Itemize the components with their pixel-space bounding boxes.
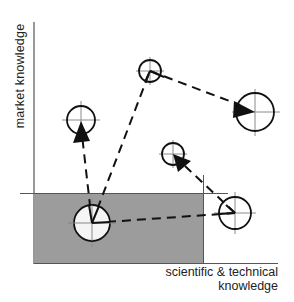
x-axis-label-line2: knowledge (165, 279, 278, 293)
x-axis-label: scientific & technical knowledge (165, 265, 278, 293)
shaded-region (35, 194, 203, 263)
diagram-canvas (0, 0, 294, 302)
arrowhead-right (233, 101, 255, 118)
x-axis-label-line1: scientific & technical (165, 265, 278, 279)
y-axis-label: market knowledge (13, 24, 27, 129)
